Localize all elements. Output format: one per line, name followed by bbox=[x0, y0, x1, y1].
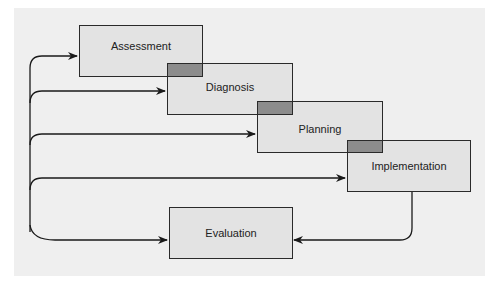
overlap-assessment-diagnosis bbox=[167, 63, 203, 77]
step-label-diagnosis: Diagnosis bbox=[206, 81, 254, 93]
step-label-assessment: Assessment bbox=[111, 40, 171, 52]
overlap-planning-implementation bbox=[347, 140, 383, 153]
step-label-planning: Planning bbox=[299, 123, 342, 135]
step-evaluation: Evaluation bbox=[169, 207, 293, 259]
loop-to-implementation-arrow bbox=[30, 178, 345, 190]
overlap-diagnosis-planning bbox=[257, 101, 293, 115]
step-label-implementation: Implementation bbox=[371, 160, 446, 172]
step-label-evaluation: Evaluation bbox=[205, 227, 256, 239]
loop-to-diagnosis-arrow bbox=[30, 91, 165, 103]
loop-to-assessment-arrow bbox=[30, 56, 77, 232]
loop-to-evaluation-arrow bbox=[30, 225, 167, 240]
loop-to-planning-arrow bbox=[30, 134, 255, 145]
implementation-to-evaluation-arrow bbox=[294, 191, 412, 240]
